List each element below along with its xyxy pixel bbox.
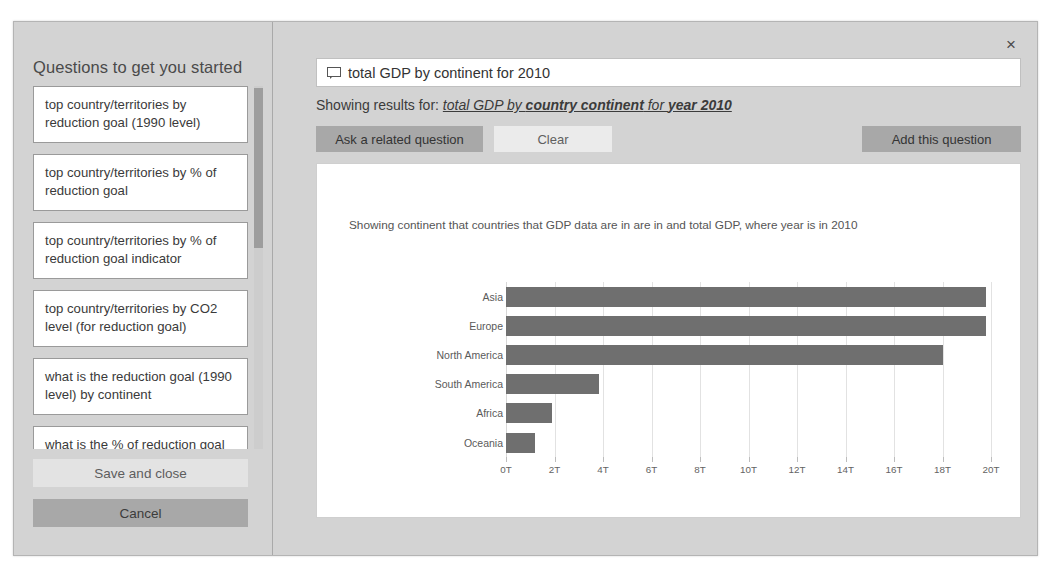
comment-bubble-icon — [327, 67, 341, 79]
chart-tick-label: 4T — [597, 464, 608, 475]
showing-results-prefix: Showing results for: — [316, 97, 439, 113]
chart-category-labels: AsiaEuropeNorth AmericaSouth AmericaAfri… — [345, 282, 503, 457]
cancel-button[interactable]: Cancel — [33, 499, 248, 527]
question-builder-dialog: Questions to get you started top country… — [13, 21, 1038, 556]
list-item[interactable]: top country/territories by reduction goa… — [33, 86, 248, 143]
list-item[interactable]: what is the reduction goal (1990 level) … — [33, 358, 248, 415]
clear-button[interactable]: Clear — [494, 126, 612, 152]
chart-category-label: Europe — [345, 311, 503, 340]
chart-tick-mark — [555, 457, 556, 462]
list-item[interactable]: top country/territories by % of reductio… — [33, 222, 248, 279]
chart-tick-label: 18T — [934, 464, 951, 475]
suggested-questions-list: top country/territories by reduction goa… — [33, 86, 248, 449]
sidebar: Questions to get you started top country… — [14, 22, 272, 555]
chart-tick-label: 8T — [694, 464, 705, 475]
resolved-query-part-3: for — [644, 97, 668, 113]
close-icon[interactable]: × — [1000, 34, 1022, 56]
chart-tick-label: 16T — [886, 464, 903, 475]
chart-plot-area — [506, 282, 991, 457]
chart-category-label: North America — [345, 340, 503, 369]
chart-bar-row — [506, 340, 991, 369]
chart-tick-label: 14T — [837, 464, 854, 475]
list-item[interactable]: top country/territories by % of reductio… — [33, 154, 248, 211]
chart-tick-mark — [652, 457, 653, 462]
chart-tick-mark — [894, 457, 895, 462]
chart-bar-row — [506, 370, 991, 399]
chart-bar[interactable] — [506, 403, 552, 423]
chart-category-label: South America — [345, 370, 503, 399]
list-item[interactable]: what is the % of reduction goal — [33, 426, 248, 449]
chart-tick-label: 2T — [549, 464, 560, 475]
chart-tick-mark — [700, 457, 701, 462]
chart-tick-mark — [846, 457, 847, 462]
chart-category-label: Africa — [345, 399, 503, 428]
chart-tick-label: 0T — [500, 464, 511, 475]
save-and-close-button[interactable]: Save and close — [33, 459, 248, 487]
query-input-value: total GDP by continent for 2010 — [348, 65, 550, 81]
resolved-query-part-2: country continent — [526, 97, 644, 113]
chart-category-label: Oceania — [345, 428, 503, 457]
showing-results-line: Showing results for: total GDP by countr… — [316, 97, 732, 113]
chart-tick-label: 10T — [740, 464, 757, 475]
chart-bar[interactable] — [506, 374, 599, 394]
chart-tick-label: 12T — [789, 464, 806, 475]
chart-tick-mark — [506, 457, 507, 462]
sidebar-title: Questions to get you started — [33, 58, 242, 77]
bar-chart: AsiaEuropeNorth AmericaSouth AmericaAfri… — [317, 282, 1022, 497]
chart-tick-mark — [603, 457, 604, 462]
main-panel: × total GDP by continent for 2010 Showin… — [273, 22, 1037, 555]
sidebar-scrollbar-thumb[interactable] — [254, 88, 263, 248]
chart-tick-label: 6T — [646, 464, 657, 475]
chart-bar[interactable] — [506, 287, 986, 307]
chart-bar-row — [506, 282, 991, 311]
chart-card: Showing continent that countries that GD… — [316, 163, 1021, 518]
chart-tick-mark — [991, 457, 992, 462]
list-item[interactable]: top country/territories by CO2 level (fo… — [33, 290, 248, 347]
add-this-question-button[interactable]: Add this question — [862, 126, 1021, 152]
chart-bar[interactable] — [506, 345, 943, 365]
ask-related-question-button[interactable]: Ask a related question — [316, 126, 483, 152]
resolved-query-part-4: year 2010 — [668, 97, 732, 113]
chart-bar-row — [506, 428, 991, 457]
chart-caption: Showing continent that countries that GD… — [349, 218, 857, 232]
chart-tick-mark — [943, 457, 944, 462]
chart-bar-row — [506, 311, 991, 340]
chart-gridline — [991, 282, 992, 457]
resolved-query-part-1: total GDP by — [443, 97, 526, 113]
chart-tick-mark — [749, 457, 750, 462]
query-input[interactable]: total GDP by continent for 2010 — [316, 58, 1021, 87]
chart-x-axis: 0T2T4T6T8T10T12T14T16T18T20T — [506, 457, 991, 481]
chart-bar[interactable] — [506, 316, 986, 336]
chart-bar-row — [506, 399, 991, 428]
chart-tick-mark — [797, 457, 798, 462]
chart-bar[interactable] — [506, 433, 535, 453]
chart-category-label: Asia — [345, 282, 503, 311]
chart-tick-label: 20T — [983, 464, 1000, 475]
